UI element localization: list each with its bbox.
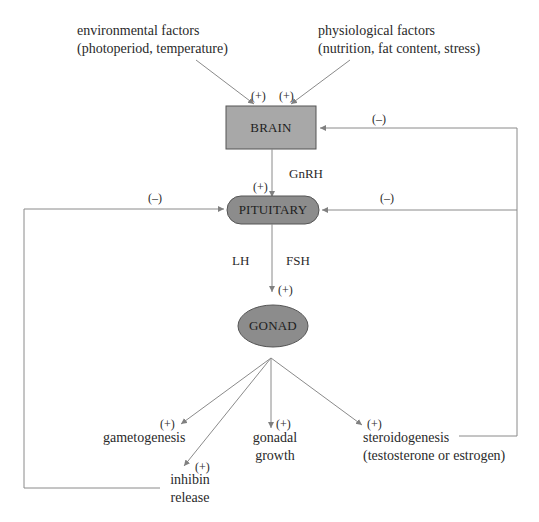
steroid-feedback-line bbox=[320, 128, 517, 436]
physiological-positive-sign: (+) bbox=[279, 89, 294, 103]
brain-negative-sign: (–) bbox=[372, 112, 386, 126]
pituitary-negative-sign: (–) bbox=[380, 191, 394, 205]
inhibin-release-label: release bbox=[160, 489, 220, 507]
gonad-label: GONAD bbox=[238, 318, 308, 334]
gonad-positive-sign: (+) bbox=[278, 283, 293, 297]
steroidogenesis-label: steroidogenesis bbox=[363, 429, 449, 447]
steroidogenesis-detail: (testosterone or estrogen) bbox=[363, 447, 505, 465]
physiological-factors-label: physiological factors bbox=[318, 22, 435, 40]
environmental-positive-sign: (+) bbox=[251, 89, 266, 103]
inhibin-negative-sign: (–) bbox=[148, 191, 162, 205]
fsh-label: FSH bbox=[286, 252, 310, 270]
inhibin-label: inhibin bbox=[160, 471, 220, 489]
physiological-factors-detail: (nutrition, fat content, stress) bbox=[318, 40, 480, 58]
growth-label: growth bbox=[245, 447, 305, 465]
brain-label: BRAIN bbox=[226, 120, 316, 136]
environmental-factors-detail: (photoperiod, temperature) bbox=[77, 40, 228, 58]
gnrh-positive-sign: (+) bbox=[253, 180, 268, 194]
gametogenesis-label: gametogenesis bbox=[103, 429, 185, 447]
physiological-arrow bbox=[291, 60, 350, 104]
gonadal-label: gonadal bbox=[245, 429, 305, 447]
environmental-arrow bbox=[196, 60, 254, 104]
environmental-factors-label: environmental factors bbox=[77, 22, 199, 40]
steroidogenesis-arrow bbox=[271, 358, 362, 425]
gnrh-label: GnRH bbox=[289, 165, 323, 183]
pituitary-label: PITUITARY bbox=[227, 202, 319, 218]
lh-label: LH bbox=[232, 252, 249, 270]
